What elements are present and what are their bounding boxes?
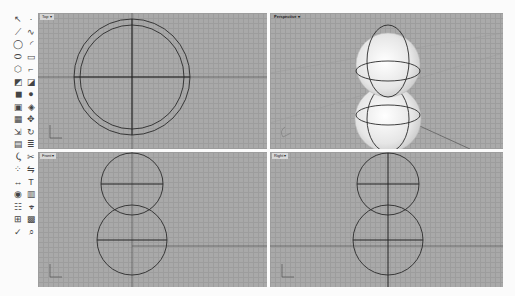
analyze-icon[interactable]: ⌖ <box>25 202 37 213</box>
array-icon[interactable]: ⁘ <box>12 164 24 175</box>
sphere-icon[interactable]: ● <box>25 89 37 100</box>
curve-icon[interactable]: ∿ <box>25 27 37 38</box>
viewport-perspective-label[interactable]: Perspective ▾ <box>272 14 302 20</box>
grid-icon[interactable]: ▩ <box>25 214 37 225</box>
loft-icon[interactable]: ◪ <box>25 77 37 88</box>
point-icon[interactable]: · <box>25 14 37 25</box>
check-icon[interactable]: ✓ <box>12 227 24 238</box>
extrude-icon[interactable]: ▣ <box>12 102 24 113</box>
transform-icon[interactable]: ✥ <box>25 114 37 125</box>
viewport-front-label[interactable]: Front ▾ <box>40 153 56 159</box>
viewport-front[interactable]: Front ▾ <box>38 152 267 287</box>
axis-icon <box>50 125 62 138</box>
rotate-icon[interactable]: ↻ <box>25 127 37 138</box>
viewport-right[interactable]: Right ▾ <box>270 152 503 287</box>
zoom-icon[interactable]: ⌕ <box>25 227 37 238</box>
top-view-geometry <box>38 13 267 149</box>
command-toolbar: ↖·⟋∿◯◜⬭▭⬡⌐◩◪◼●▣◈▦✥⇲↻▤≣⤹✂⁘⇋↔T◉▥☷⌖⊞▩✓⌕ <box>12 14 38 244</box>
arc-icon[interactable]: ◜ <box>25 39 37 50</box>
axis-icon <box>282 264 294 277</box>
split-icon[interactable]: ⤹ <box>12 152 24 163</box>
layer-icon[interactable]: ≣ <box>25 139 37 150</box>
boolean-icon[interactable]: ◈ <box>25 102 37 113</box>
right-view-geometry <box>270 152 503 287</box>
trim-icon[interactable]: ✂ <box>25 152 37 163</box>
render-icon[interactable]: ◉ <box>12 189 24 200</box>
select-icon[interactable]: ↖ <box>12 14 24 25</box>
mesh-icon[interactable]: ▦ <box>12 114 24 125</box>
group-icon[interactable]: ▤ <box>12 139 24 150</box>
viewport-top[interactable]: Top ▾ <box>38 13 267 149</box>
polyline-icon[interactable]: ⟋ <box>12 27 24 38</box>
ellipse-icon[interactable]: ⬭ <box>12 52 24 63</box>
viewport-perspective[interactable]: Perspective ▾ <box>270 13 503 149</box>
surface-icon[interactable]: ◩ <box>12 77 24 88</box>
dimension-icon[interactable]: ↔ <box>12 177 24 188</box>
fillet-icon[interactable]: ⌐ <box>25 64 37 75</box>
box-icon[interactable]: ◼ <box>12 89 24 100</box>
perspective-view-geometry <box>270 13 503 149</box>
polygon-icon[interactable]: ⬡ <box>12 64 24 75</box>
viewport-right-label[interactable]: Right ▾ <box>272 153 288 159</box>
axis-icon <box>50 264 62 277</box>
text-icon[interactable]: T <box>25 177 37 188</box>
viewport-top-label[interactable]: Top ▾ <box>40 14 54 20</box>
circle-icon[interactable]: ◯ <box>12 39 24 50</box>
front-view-geometry <box>38 152 267 287</box>
snap-icon[interactable]: ⊞ <box>12 214 24 225</box>
move-icon[interactable]: ⇲ <box>12 127 24 138</box>
properties-icon[interactable]: ☷ <box>12 202 24 213</box>
material-icon[interactable]: ▥ <box>25 189 37 200</box>
rectangle-icon[interactable]: ▭ <box>25 52 37 63</box>
axis-icon <box>281 127 291 137</box>
mirror-icon[interactable]: ⇋ <box>25 164 37 175</box>
